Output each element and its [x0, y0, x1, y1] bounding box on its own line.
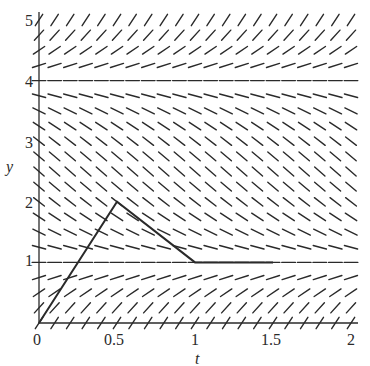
- slope-segment: [158, 46, 169, 54]
- slope-segment: [315, 30, 324, 40]
- slope-segment: [236, 198, 247, 206]
- slope-segment: [111, 63, 124, 67]
- slope-segment: [331, 303, 340, 313]
- slope-segment: [174, 289, 185, 297]
- slope-segment: [190, 137, 201, 145]
- slope-segment: [346, 152, 356, 161]
- slope-segment: [111, 122, 122, 129]
- slope-segment: [268, 152, 278, 161]
- slope-segment: [283, 198, 294, 206]
- slope-segment: [267, 63, 280, 67]
- slope-segment: [143, 167, 153, 176]
- slope-segment: [299, 122, 310, 129]
- slope-segment: [190, 198, 201, 206]
- slope-segment: [204, 276, 217, 280]
- slope-segment: [285, 14, 292, 25]
- slope-segment: [95, 276, 108, 280]
- slope-segment: [49, 213, 60, 220]
- slope-segment: [220, 245, 233, 249]
- slope-segment: [204, 229, 216, 235]
- slope-segment: [298, 108, 310, 114]
- slope-segment: [190, 303, 199, 313]
- slope-segment: [300, 30, 309, 40]
- slope-segment: [143, 137, 154, 145]
- slope-segment: [252, 167, 262, 176]
- slope-segment: [298, 63, 311, 67]
- slope-segment: [205, 152, 215, 161]
- slope-segment: [144, 30, 153, 40]
- slope-segment: [315, 152, 325, 161]
- slope-segment: [143, 46, 154, 54]
- slope-segment: [175, 303, 184, 313]
- slope-segment: [143, 289, 154, 297]
- slope-segment: [346, 182, 356, 191]
- slope-segment: [221, 167, 231, 176]
- slope-segment: [220, 108, 232, 114]
- slope-segment: [330, 289, 341, 297]
- slope-segment: [174, 122, 185, 129]
- slope-segment: [81, 167, 91, 176]
- slope-segment: [112, 152, 122, 161]
- slope-segment: [236, 108, 248, 114]
- slope-segment: [49, 137, 60, 145]
- slope-segment: [49, 46, 60, 54]
- slope-segment: [143, 198, 154, 206]
- slope-segment: [314, 229, 326, 235]
- slope-segment: [252, 152, 262, 161]
- slope-segment: [112, 137, 123, 145]
- slope-segment: [222, 303, 231, 313]
- slope-segment: [174, 167, 184, 176]
- slope-segment: [268, 303, 277, 313]
- slope-segment: [49, 167, 59, 176]
- x-tick-label: 2: [347, 331, 355, 348]
- slope-segment: [344, 94, 357, 98]
- slope-segment: [299, 289, 310, 297]
- slope-segment: [330, 198, 341, 206]
- slope-segment: [126, 108, 138, 114]
- slope-segment: [345, 213, 356, 220]
- slope-segment: [299, 198, 310, 206]
- slope-segment: [283, 213, 294, 220]
- slope-segment: [251, 245, 264, 249]
- slope-segment: [173, 94, 186, 98]
- slope-segment: [145, 14, 152, 25]
- slope-segment: [221, 137, 232, 145]
- slope-segment: [329, 94, 342, 98]
- slope-segment: [223, 14, 230, 25]
- slope-segment: [220, 63, 233, 67]
- slope-segment: [251, 94, 264, 98]
- slope-segment: [158, 289, 169, 297]
- slope-segment: [314, 122, 325, 129]
- y-axis-ticks: 1 2 3 4 5: [25, 12, 33, 269]
- slope-segment: [221, 289, 232, 297]
- slope-segment: [127, 289, 138, 297]
- slope-segment: [98, 14, 105, 25]
- slope-segment: [282, 94, 295, 98]
- slope-segment: [65, 122, 76, 129]
- slope-segment: [189, 213, 200, 220]
- slope-segment: [80, 213, 91, 220]
- slope-segment: [112, 30, 121, 40]
- slope-segment: [220, 276, 233, 280]
- slope-segment: [80, 137, 91, 145]
- slope-segment: [96, 289, 107, 297]
- slope-segment: [252, 137, 263, 145]
- x-axis-label: t: [195, 350, 200, 366]
- slope-segment: [79, 276, 92, 280]
- slope-segment: [236, 213, 247, 220]
- slope-segment: [235, 63, 248, 67]
- y-tick-label: 5: [25, 12, 33, 29]
- slope-segment: [158, 108, 170, 114]
- slope-segment: [174, 198, 185, 206]
- slope-segment: [298, 245, 311, 249]
- slope-segment: [345, 229, 357, 235]
- slope-segment: [298, 94, 311, 98]
- slope-segment: [266, 245, 279, 249]
- slope-segment: [49, 198, 60, 206]
- slope-segment: [191, 14, 198, 25]
- slope-segment: [252, 289, 263, 297]
- slope-segment: [268, 30, 277, 40]
- slope-segment: [111, 213, 122, 220]
- slope-field: [32, 14, 358, 328]
- slope-segment: [143, 182, 153, 191]
